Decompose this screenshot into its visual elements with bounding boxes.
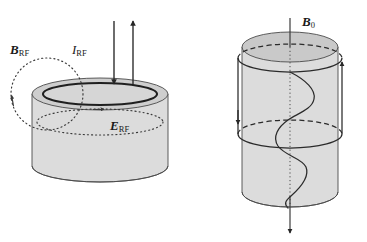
left-panel-group: [11, 21, 168, 182]
disc-inner-ring: [43, 83, 157, 105]
right-panel-group: [238, 18, 342, 233]
physics-diagram: [0, 0, 367, 242]
